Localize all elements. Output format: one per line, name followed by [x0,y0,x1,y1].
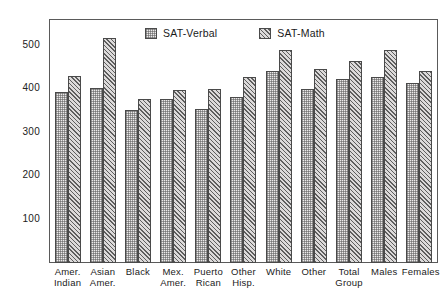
x-axis-label-line: Other [296,266,331,277]
x-axis-label-line: Mex. [156,266,191,277]
bar-math [138,99,151,263]
y-axis-tick-label: 400 [22,82,40,93]
x-axis-label-line: Puerto [191,266,226,277]
x-axis-label: Mex.Amer. [156,266,191,288]
x-axis-label-line: Females [402,266,437,277]
x-axis-label: TotalGroup [331,266,366,288]
x-axis-label: Amer.Indian [50,266,85,288]
y-axis-tick-label: 100 [22,213,40,224]
x-axis-label-line: White [261,266,296,277]
y-axis-tick-label: 300 [22,126,40,137]
bar-math [314,69,327,263]
x-axis-label-line: Amer. [85,277,120,288]
bar-group [261,20,296,263]
bar-group [50,20,85,263]
bar-group [331,20,366,263]
x-axis-label: Other [296,266,331,277]
bar-verbal [336,79,349,263]
x-axis-label-line: Indian [50,277,85,288]
bar-math [68,76,81,263]
x-axis-label-line: Amer. [156,277,191,288]
x-axis-label: Black [120,266,155,277]
x-axis-label-line: Group [331,277,366,288]
x-axis-label: Males [367,266,402,277]
bar-math [384,50,397,263]
bar-verbal [125,110,138,263]
bar-verbal [406,83,419,263]
y-axis-tick-label: 200 [22,169,40,180]
bar-math [279,50,292,263]
bar-math [243,77,256,263]
x-axis-label-line: Black [120,266,155,277]
bar-verbal [230,97,243,263]
bar-verbal [160,99,173,263]
x-axis-labels: Amer.IndianAsianAmer.BlackMex.Amer.Puert… [50,266,437,302]
bar-verbal [266,71,279,263]
x-axis-label: OtherHisp. [226,266,261,288]
bar-group [191,20,226,263]
bar-group [226,20,261,263]
sat-mean-score-bar-chart: SAT Mean Score 100200300400500 SAT-Verba… [0,0,444,303]
bar-verbal [371,77,384,263]
x-axis-label-line: Asian [85,266,120,277]
bar-verbal [90,88,103,263]
y-axis-tick-label: 500 [22,39,40,50]
x-axis-label-line: Amer. [50,266,85,277]
bar-group [296,20,331,263]
x-axis-label: White [261,266,296,277]
bar-math [208,89,221,263]
x-axis-label-line: Other [226,266,261,277]
x-axis-label: Females [402,266,437,277]
bar-group [367,20,402,263]
bar-math [103,38,116,263]
x-axis-label-line: Total [331,266,366,277]
bar-math [419,71,432,263]
x-axis-label-line: Hisp. [226,277,261,288]
x-axis-label-line: Males [367,266,402,277]
x-axis-label: PuertoRican [191,266,226,288]
x-axis-label-line: Rican [191,277,226,288]
bar-verbal [301,89,314,263]
bar-group [85,20,120,263]
bar-math [173,90,186,263]
bar-group [120,20,155,263]
plot-area [50,20,437,263]
bar-group [402,20,437,263]
bar-verbal [195,109,208,263]
x-axis-label: AsianAmer. [85,266,120,288]
bar-group [156,20,191,263]
bar-verbal [55,92,68,263]
bar-math [349,61,362,263]
